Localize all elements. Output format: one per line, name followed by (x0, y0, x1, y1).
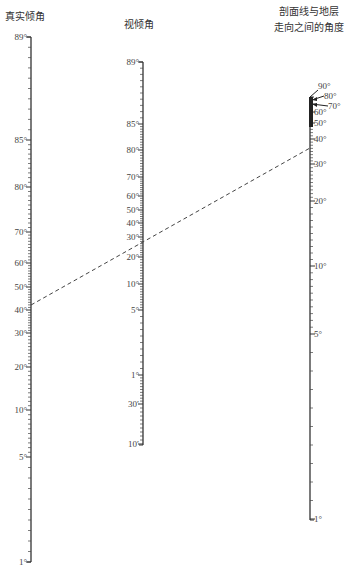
tick-label: 1° (314, 514, 323, 524)
tick-label: 85° (126, 119, 139, 129)
tick-label: 60° (314, 107, 327, 117)
tick-label: 30° (126, 232, 139, 242)
tick-label: 20° (126, 252, 139, 262)
tick-label: 1° (131, 370, 140, 380)
tick-label: 20° (14, 362, 27, 372)
tick-label: 40° (314, 134, 327, 144)
tick-label: 60° (126, 191, 139, 201)
tick-label: 5° (131, 305, 140, 315)
tick-label: 70° (14, 227, 27, 237)
tick-label: 10° (14, 405, 27, 415)
tick-label: 5° (314, 329, 323, 339)
arrow-90 (310, 90, 318, 97)
nomogram-canvas: 89°85°80°70°60°50°40°30°20°10°5°1°89°85°… (0, 0, 352, 577)
tick-label: 20° (314, 196, 327, 206)
tick-label: 80° (14, 182, 27, 192)
tick-label: 60° (14, 258, 27, 268)
tick-label: 50° (314, 118, 327, 128)
tick-label: 10° (126, 279, 139, 289)
dense-tick-block (309, 97, 313, 127)
tick-label: 40° (126, 218, 139, 228)
tick-label: 10° (314, 261, 327, 271)
example-dashed-line (31, 148, 310, 305)
tick-label: 70° (328, 101, 341, 111)
tick-label: 30′ (128, 399, 139, 409)
tick-label: 30° (14, 328, 27, 338)
tick-label: 85° (14, 135, 27, 145)
tick-label: 50° (126, 205, 139, 215)
tick-label: 90° (318, 81, 331, 91)
tick-label: 89° (126, 57, 139, 67)
tick-label: 80° (324, 91, 337, 101)
tick-label: 80° (126, 145, 139, 155)
tick-label: 5° (19, 452, 28, 462)
tick-label: 30° (314, 159, 327, 169)
tick-label: 70° (126, 172, 139, 182)
tick-label: 50° (14, 282, 27, 292)
tick-label: 89° (14, 32, 27, 42)
tick-label: 10′ (128, 439, 139, 449)
tick-label: 1° (19, 557, 28, 567)
tick-label: 40° (14, 305, 27, 315)
